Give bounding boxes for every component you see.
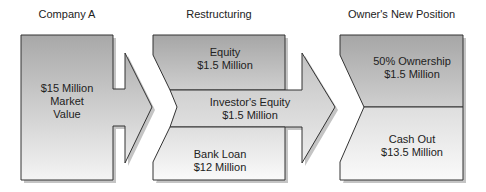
company-a-line2: Market bbox=[21, 95, 113, 108]
equity-value: $1.5 Million bbox=[170, 59, 280, 72]
heading-owners-new-position: Owner's New Position bbox=[335, 8, 468, 20]
equity-title: Equity bbox=[170, 46, 280, 59]
equity-label: Equity $1.5 Million bbox=[170, 46, 280, 72]
ownership-value: $1.5 Million bbox=[362, 68, 462, 81]
bank-loan-label: Bank Loan $12 Million bbox=[170, 148, 270, 174]
cash-out-label: Cash Out $13.5 Million bbox=[362, 133, 462, 159]
investor-equity-title: Investor's Equity bbox=[185, 96, 315, 109]
bank-loan-value: $12 Million bbox=[170, 161, 270, 174]
bank-loan-title: Bank Loan bbox=[170, 148, 270, 161]
investor-equity-value: $1.5 Million bbox=[185, 109, 315, 122]
company-a-label: $15 Million Market Value bbox=[21, 82, 113, 121]
cash-out-title: Cash Out bbox=[362, 133, 462, 146]
ownership-title: 50% Ownership bbox=[362, 55, 462, 68]
ownership-label: 50% Ownership $1.5 Million bbox=[362, 55, 462, 81]
heading-restructuring: Restructuring bbox=[153, 8, 285, 20]
company-a-line3: Value bbox=[21, 108, 113, 121]
investor-equity-label: Investor's Equity $1.5 Million bbox=[185, 96, 315, 122]
heading-company-a: Company A bbox=[21, 8, 113, 20]
cash-out-value: $13.5 Million bbox=[362, 146, 462, 159]
company-a-value: $15 Million bbox=[21, 82, 113, 95]
